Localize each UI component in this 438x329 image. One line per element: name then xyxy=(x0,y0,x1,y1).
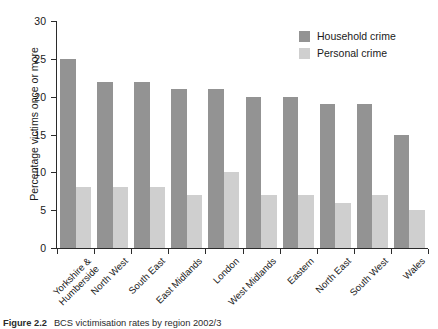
legend-item-personal[interactable]: Personal crime xyxy=(299,46,396,61)
bar-household[interactable] xyxy=(134,82,150,248)
y-axis-tick-label: 30 xyxy=(22,16,46,26)
bar-personal[interactable] xyxy=(261,195,277,248)
bar-household[interactable] xyxy=(171,89,187,248)
legend: Household crime Personal crime xyxy=(299,29,396,63)
bar-household[interactable] xyxy=(246,97,262,248)
y-axis-tick xyxy=(51,210,56,211)
figure-container: Percentage victims once or more 05101520… xyxy=(0,0,438,329)
bar-household[interactable] xyxy=(320,104,336,248)
bar-household[interactable] xyxy=(394,135,410,249)
figure-caption-text: BCS victimisation rates by region 2002/3 xyxy=(54,318,221,328)
y-axis-tick-label: 25 xyxy=(22,54,46,64)
x-axis-tick xyxy=(391,249,392,254)
legend-swatch-household-icon xyxy=(299,31,310,42)
x-axis-tick xyxy=(317,249,318,254)
y-axis-tick xyxy=(51,59,56,60)
bar-personal[interactable] xyxy=(409,210,425,248)
figure-caption: Figure 2.2BCS victimisation rates by reg… xyxy=(3,318,433,329)
x-axis-tick xyxy=(428,249,429,254)
figure-caption-label: Figure 2.2 xyxy=(3,318,47,328)
x-axis-tick xyxy=(243,249,244,254)
x-axis-tick xyxy=(354,249,355,254)
y-axis-tick xyxy=(51,172,56,173)
y-axis-tick-label: 20 xyxy=(22,92,46,102)
bar-personal[interactable] xyxy=(113,187,129,248)
bar-personal[interactable] xyxy=(224,172,240,248)
bar-household[interactable] xyxy=(283,97,299,248)
y-axis-tick-label: 5 xyxy=(22,205,46,215)
y-axis-tick xyxy=(51,21,56,22)
legend-label-personal: Personal crime xyxy=(317,48,387,59)
y-axis-tick-label: 10 xyxy=(22,167,46,177)
y-axis-tick xyxy=(51,248,56,249)
x-axis-tick xyxy=(57,249,58,254)
bar-household[interactable] xyxy=(97,82,113,248)
legend-label-household: Household crime xyxy=(317,31,396,42)
legend-item-household[interactable]: Household crime xyxy=(299,29,396,44)
y-axis-tick-label: 0 xyxy=(22,243,46,253)
y-axis-tick xyxy=(51,97,56,98)
x-axis-tick xyxy=(205,249,206,254)
bar-household[interactable] xyxy=(208,89,224,248)
bar-personal[interactable] xyxy=(76,187,92,248)
legend-swatch-personal-icon xyxy=(299,48,310,59)
x-axis-tick xyxy=(168,249,169,254)
x-axis-tick xyxy=(94,249,95,254)
bar-household[interactable] xyxy=(357,104,373,248)
bar-personal[interactable] xyxy=(372,195,388,248)
y-axis-tick xyxy=(51,135,56,136)
x-axis-tick xyxy=(280,249,281,254)
bar-personal[interactable] xyxy=(187,195,203,248)
y-axis-tick-label: 15 xyxy=(22,130,46,140)
bar-personal[interactable] xyxy=(335,203,351,248)
bar-personal[interactable] xyxy=(298,195,314,248)
bar-household[interactable] xyxy=(60,59,76,248)
x-axis-tick xyxy=(131,249,132,254)
bar-personal[interactable] xyxy=(150,187,166,248)
